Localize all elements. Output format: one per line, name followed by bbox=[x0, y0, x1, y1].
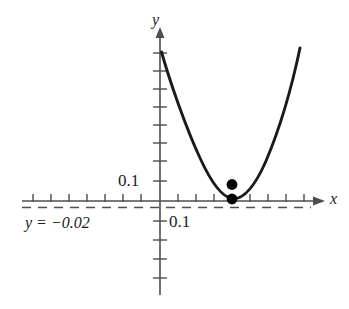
data-point-upper bbox=[227, 179, 238, 190]
x-axis-label: x bbox=[330, 191, 337, 207]
data-point-vertex bbox=[227, 194, 238, 205]
curve-path bbox=[162, 48, 301, 199]
graph-figure: y x 0.1 0.1 y = −0.02 bbox=[0, 0, 349, 309]
x-axis bbox=[22, 197, 325, 206]
dashed-line-annotation: y = −0.02 bbox=[25, 215, 90, 231]
plot-canvas bbox=[0, 0, 349, 309]
x-tick-label-0-1: 0.1 bbox=[169, 213, 190, 230]
y-axis-label: y bbox=[152, 12, 159, 28]
y-tick-label-0-1: 0.1 bbox=[118, 172, 139, 189]
